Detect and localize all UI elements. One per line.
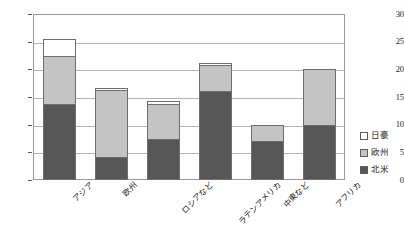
bar-stack xyxy=(95,88,128,180)
bar-segment[interactable] xyxy=(147,139,180,181)
legend-swatch-icon xyxy=(360,132,368,140)
bar-segment[interactable] xyxy=(43,39,76,56)
legend-label: 日豪 xyxy=(371,131,389,140)
y-tick-mark xyxy=(28,97,32,98)
bar-stack xyxy=(199,63,232,180)
x-axis-label: 中東など xyxy=(282,181,310,209)
legend-swatch-icon xyxy=(360,149,368,157)
bar-segment[interactable] xyxy=(303,69,336,124)
x-axis-label: ラテンアメリカ xyxy=(237,181,282,226)
bar-segment[interactable] xyxy=(303,125,336,180)
y-tick-mark xyxy=(28,152,32,153)
y-tick-mark xyxy=(28,14,32,15)
legend-swatch-icon xyxy=(360,166,368,174)
x-axis-label: ロシアなど xyxy=(181,181,215,215)
x-axis-label: アフリカ xyxy=(334,181,362,209)
bars-layer xyxy=(33,14,345,180)
bar-group[interactable] xyxy=(95,14,128,180)
y-tick-label: 25 xyxy=(378,37,404,46)
x-axis-label: 欧州 xyxy=(122,181,139,198)
legend-item[interactable]: 北米 xyxy=(360,161,404,178)
x-axis-labels: アジア欧州ロシアなどラテンアメリカ中東などアフリカ xyxy=(33,181,345,234)
bar-segment[interactable] xyxy=(43,104,76,180)
bar-segment[interactable] xyxy=(251,125,284,142)
bar-group[interactable] xyxy=(199,14,232,180)
legend-item[interactable]: 日豪 xyxy=(360,127,404,144)
x-axis-label: アジア xyxy=(72,181,95,204)
bar-stack xyxy=(303,69,336,180)
y-tick-label: 15 xyxy=(378,93,404,102)
y-tick-label: 30 xyxy=(378,10,404,19)
bar-stack xyxy=(251,125,284,180)
bar-segment[interactable] xyxy=(95,90,128,156)
bar-segment[interactable] xyxy=(43,56,76,104)
y-tick-mark xyxy=(28,42,32,43)
chart-legend: 日豪欧州北米 xyxy=(360,127,404,178)
legend-item[interactable]: 欧州 xyxy=(360,144,404,161)
bar-stack xyxy=(43,39,76,180)
legend-label: 北米 xyxy=(371,165,389,174)
y-tick-mark xyxy=(28,125,32,126)
y-tick-mark xyxy=(28,69,32,70)
bar-segment[interactable] xyxy=(251,141,284,180)
stacked-bar-chart: 051015202530 アジア欧州ロシアなどラテンアメリカ中東などアフリカ 日… xyxy=(0,0,404,234)
bar-group[interactable] xyxy=(43,14,76,180)
bar-segment[interactable] xyxy=(95,157,128,180)
bar-segment[interactable] xyxy=(199,65,232,91)
legend-label: 欧州 xyxy=(371,148,389,157)
bar-segment[interactable] xyxy=(147,104,180,139)
bar-stack xyxy=(147,101,180,180)
bar-segment[interactable] xyxy=(199,91,232,180)
y-tick-mark xyxy=(28,180,32,181)
bar-group[interactable] xyxy=(251,14,284,180)
bar-group[interactable] xyxy=(147,14,180,180)
y-tick-label: 20 xyxy=(378,65,404,74)
bar-group[interactable] xyxy=(303,14,336,180)
